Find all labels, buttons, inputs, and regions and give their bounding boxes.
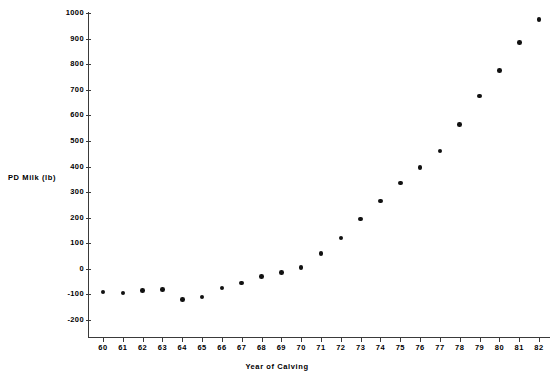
data-point [517, 40, 522, 45]
plot-area [0, 0, 554, 378]
data-point [180, 297, 185, 302]
data-point [160, 287, 165, 292]
data-point [220, 286, 225, 291]
data-point [140, 288, 145, 293]
data-point [259, 274, 264, 279]
data-point [299, 265, 304, 270]
y-axis-title: PD Milk (lb) [8, 173, 56, 182]
data-point [101, 290, 106, 295]
data-point [457, 122, 462, 127]
data-point [279, 270, 284, 275]
data-point [378, 199, 383, 204]
scatter-chart: 10009008007006005004003002001000-100-200… [0, 0, 554, 378]
data-point [358, 217, 363, 222]
data-point [537, 17, 542, 22]
data-point [438, 149, 443, 154]
data-point [497, 68, 502, 73]
data-point [239, 281, 244, 286]
data-point [319, 251, 324, 256]
data-point [398, 181, 403, 186]
data-point [418, 165, 423, 170]
data-point [477, 94, 482, 99]
data-point [339, 236, 344, 241]
data-point [200, 295, 205, 300]
data-point [121, 291, 126, 296]
x-axis-title: Year of Calving [0, 362, 554, 371]
